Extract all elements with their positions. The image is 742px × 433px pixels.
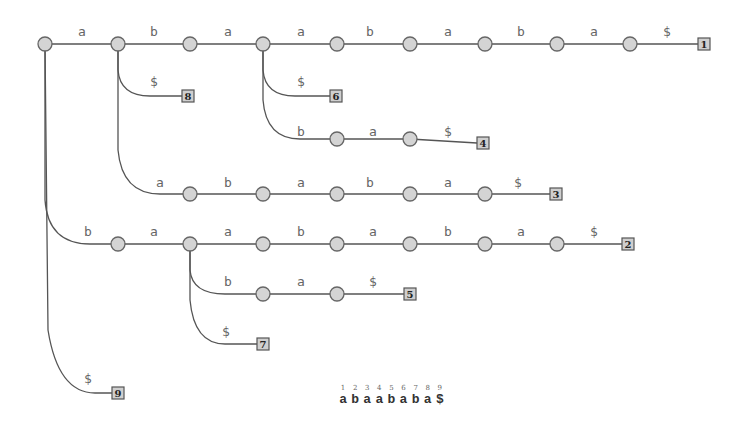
internal-node	[330, 187, 344, 201]
edge-label: a	[78, 24, 86, 39]
internal-node	[38, 37, 52, 51]
edge-label: a	[224, 224, 232, 239]
string-char: 9$	[434, 384, 446, 407]
leaf-label: 2	[625, 239, 632, 250]
edge-label: a	[297, 24, 305, 39]
leaf-label: 1	[701, 39, 708, 50]
char-value: a	[361, 393, 373, 407]
leaf-node: 9	[112, 387, 124, 399]
edge-label: a	[150, 224, 158, 239]
internal-node	[330, 287, 344, 301]
string-char: 3a	[361, 384, 373, 407]
leaf-label: 5	[407, 289, 414, 300]
internal-node	[256, 237, 270, 251]
char-value: a	[337, 393, 349, 407]
leaf-node: 5	[404, 288, 416, 300]
edge-label: $	[369, 274, 377, 289]
string-char: 5b	[385, 384, 397, 407]
internal-node	[403, 237, 417, 251]
internal-node	[550, 237, 564, 251]
tree-nodes	[38, 37, 637, 301]
leaf-node: 8	[182, 90, 194, 102]
internal-node	[478, 37, 492, 51]
tree-leaves: 186432579	[112, 38, 710, 399]
internal-node	[623, 37, 637, 51]
edge-label: a	[444, 175, 452, 190]
edge-label: b	[297, 224, 305, 239]
input-string: 1a2b3a4a5b6a7b8a9$	[337, 384, 446, 407]
edge-label: a	[369, 124, 377, 139]
internal-node	[330, 37, 344, 51]
internal-node	[330, 237, 344, 251]
edge-label: b	[444, 224, 452, 239]
tree-edge	[45, 44, 112, 393]
edge-label: a	[369, 224, 377, 239]
edge-label: b	[150, 24, 158, 39]
internal-node	[256, 187, 270, 201]
tree-edge	[118, 44, 190, 194]
edge-label: b	[224, 274, 232, 289]
edge-label: $	[514, 175, 522, 190]
string-char: 6a	[397, 384, 409, 407]
edge-label: $	[297, 74, 305, 89]
edge-label: b	[297, 124, 305, 139]
tree-edge	[45, 44, 118, 244]
leaf-label: 9	[115, 388, 122, 399]
edge-label: $	[444, 124, 452, 139]
edge-label: $	[150, 74, 158, 89]
leaf-node: 7	[257, 338, 269, 350]
internal-node	[183, 237, 197, 251]
edge-label: a	[156, 175, 164, 190]
internal-node	[111, 37, 125, 51]
char-value: $	[434, 393, 446, 407]
internal-node	[403, 37, 417, 51]
edge-label: b	[366, 24, 374, 39]
edge-label: $	[222, 324, 230, 339]
edge-label: a	[297, 175, 305, 190]
edge-label: $	[84, 371, 92, 386]
edge-label: b	[366, 175, 374, 190]
edge-label: $	[663, 24, 671, 39]
string-char: 4a	[373, 384, 385, 407]
internal-node	[478, 237, 492, 251]
char-value: b	[385, 393, 397, 407]
internal-node	[330, 132, 344, 146]
leaf-label: 7	[260, 339, 267, 350]
leaf-label: 4	[480, 138, 487, 149]
internal-node	[183, 187, 197, 201]
leaf-node: 3	[550, 188, 562, 200]
edge-label: b	[517, 24, 525, 39]
leaf-node: 2	[622, 238, 634, 250]
tree-edges: abaababa$$$ba$ababa$baababa$ba$$$	[45, 24, 698, 393]
edge-label: b	[84, 224, 92, 239]
edge-label: b	[224, 175, 232, 190]
leaf-node: 4	[477, 137, 489, 149]
leaf-node: 1	[698, 38, 710, 50]
edge-label: a	[590, 24, 598, 39]
char-value: a	[373, 393, 385, 407]
internal-node	[183, 37, 197, 51]
string-char: 1a	[337, 384, 349, 407]
char-value: b	[410, 393, 422, 407]
internal-node	[256, 37, 270, 51]
leaf-label: 8	[185, 91, 192, 102]
char-value: a	[397, 393, 409, 407]
string-char: 8a	[422, 384, 434, 407]
leaf-node: 6	[330, 90, 342, 102]
string-char: 7b	[410, 384, 422, 407]
edge-label: a	[224, 24, 232, 39]
string-char: 2b	[349, 384, 361, 407]
internal-node	[111, 237, 125, 251]
char-value: a	[422, 393, 434, 407]
suffix-tree-diagram: abaababa$$$ba$ababa$baababa$ba$$$ 186432…	[0, 0, 742, 433]
edge-label: $	[590, 224, 598, 239]
tree-edge	[410, 139, 477, 143]
leaf-label: 6	[333, 91, 340, 102]
internal-node	[256, 287, 270, 301]
edge-label: a	[297, 274, 305, 289]
edge-label: a	[444, 24, 452, 39]
leaf-label: 3	[553, 189, 560, 200]
internal-node	[478, 187, 492, 201]
internal-node	[403, 187, 417, 201]
internal-node	[550, 37, 564, 51]
